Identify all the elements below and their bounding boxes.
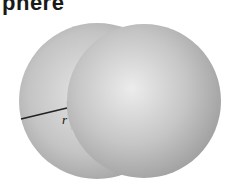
- overlapping-spheres-diagram: r: [0, 0, 232, 187]
- right-sphere: [67, 24, 221, 178]
